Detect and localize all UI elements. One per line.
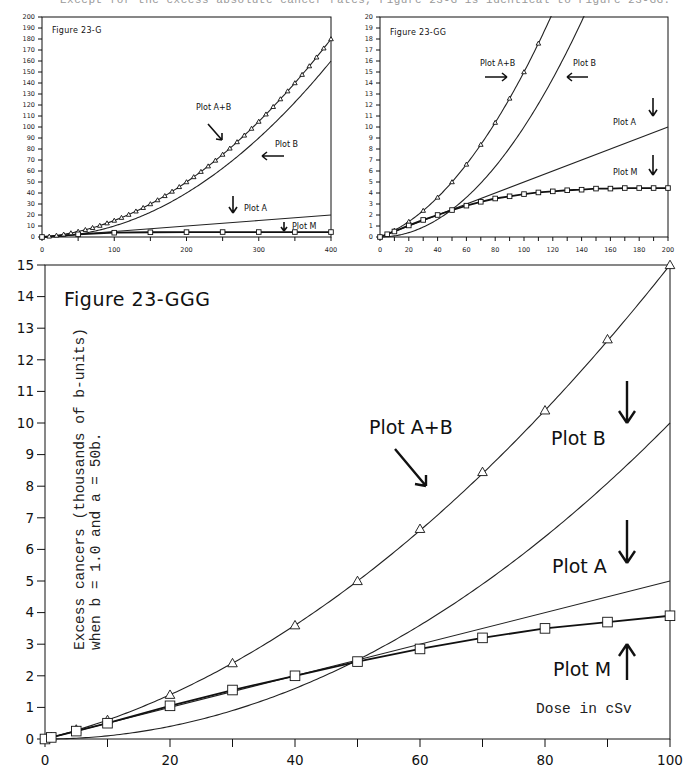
square-marker-icon: [165, 701, 175, 711]
figure-canvas: 0102030405060708090100110120130140150160…: [0, 0, 691, 784]
arrow-down-icon: [649, 98, 657, 116]
figure-title-23-ggg: Figure 23-GGG: [64, 288, 210, 310]
x-tick-label: 140: [575, 246, 587, 254]
y-tick-label: 11: [17, 383, 34, 399]
y-tick-label: 110: [23, 112, 35, 120]
x-tick-label: 120: [547, 246, 559, 254]
x-tick-label: 80: [536, 752, 553, 768]
triangle-marker-icon: [155, 198, 160, 202]
y-tick-label: 14: [17, 288, 34, 304]
square-marker-icon: [329, 230, 334, 235]
figure-title-23-gg: Figure 23-GG: [390, 28, 446, 37]
triangle-marker-icon: [329, 37, 334, 41]
x-tick-label: 0: [40, 246, 44, 254]
y-axis-label-line2: when b = 1.0 and a = 50b.: [88, 432, 104, 650]
y-tick-label: 12: [17, 352, 34, 368]
x-tick-label: 200: [180, 246, 192, 254]
triangle-marker-icon: [112, 218, 117, 222]
label-plot-b-g: Plot B: [275, 140, 298, 149]
y-tick-label: 80: [27, 145, 35, 153]
label-plot-b-ggg: Plot B: [551, 427, 606, 449]
label-plot-m-g: Plot M: [292, 222, 317, 231]
arrow-down-icon: [649, 155, 657, 175]
label-plot-ab-g: Plot A+B: [196, 103, 231, 112]
y-tick-label: 0: [31, 233, 35, 241]
square-marker-icon: [378, 235, 383, 240]
y-tick-label: 12: [365, 101, 373, 109]
y-tick-label: 4: [369, 189, 373, 197]
y-tick-label: 3: [369, 200, 373, 208]
y-tick-label: 150: [23, 68, 35, 76]
arrow-left-icon: [567, 73, 588, 81]
square-marker-icon: [479, 200, 484, 205]
square-marker-icon: [594, 186, 599, 191]
square-marker-icon: [407, 223, 412, 228]
y-tick-label: 40: [27, 189, 35, 197]
label-plot-ab-ggg: Plot A+B: [369, 416, 453, 438]
square-marker-icon: [46, 733, 56, 743]
x-tick-label: 100: [518, 246, 530, 254]
y-tick-label: 2: [369, 211, 373, 219]
y-tick-label: 180: [23, 35, 35, 43]
label-plot-a-g: Plot A: [244, 204, 268, 213]
x-tick-label: 400: [325, 246, 337, 254]
figure-title-23-g: Figure 23-G: [52, 26, 102, 35]
y-tick-label: 140: [23, 79, 35, 87]
y-tick-label: 17: [365, 46, 373, 54]
y-tick-label: 50: [27, 178, 35, 186]
arrow-up-icon: [619, 644, 635, 680]
square-marker-icon: [579, 187, 584, 192]
y-tick-label: 10: [17, 415, 34, 431]
y-tick-label: 6: [25, 541, 34, 557]
square-marker-icon: [353, 657, 363, 667]
square-marker-icon: [184, 230, 189, 235]
triangle-marker-icon: [665, 260, 675, 268]
y-tick-label: 5: [25, 573, 34, 589]
y-tick-label: 9: [25, 446, 34, 462]
y-tick-label: 5: [369, 178, 373, 186]
y-tick-label: 20: [365, 13, 373, 21]
square-marker-icon: [415, 644, 425, 654]
x-tick-label: 0: [41, 752, 50, 768]
x-tick-label: 60: [411, 752, 428, 768]
triangle-marker-icon: [134, 209, 139, 213]
y-tick-label: 13: [365, 90, 373, 98]
y-tick-label: 9: [369, 134, 373, 142]
square-marker-icon: [40, 235, 45, 240]
triangle-marker-icon: [170, 189, 175, 193]
x-tick-label: 40: [286, 752, 303, 768]
square-marker-icon: [565, 188, 570, 193]
triangle-marker-icon: [507, 96, 512, 100]
x-tick-label: 40: [433, 246, 441, 254]
x-tick-label: 100: [657, 752, 683, 768]
square-marker-icon: [450, 208, 455, 213]
label-plot-m-ggg: Plot M: [553, 658, 611, 680]
arrow-down-right-icon: [395, 449, 426, 486]
arrow-down-right-icon: [208, 124, 222, 140]
x-tick-label: 160: [604, 246, 616, 254]
square-marker-icon: [421, 218, 426, 223]
y-tick-label: 6: [369, 167, 373, 175]
square-marker-icon: [220, 230, 225, 235]
y-tick-label: 8: [369, 145, 373, 153]
chart-figure-23-ggg: 0123456789101112131415020406080100: [17, 257, 683, 768]
square-marker-icon: [385, 232, 390, 237]
y-tick-label: 15: [365, 68, 373, 76]
y-tick-label: 0: [25, 731, 34, 747]
y-tick-label: 30: [27, 200, 35, 208]
square-marker-icon: [651, 186, 656, 191]
series-line-plot-b: [42, 61, 331, 237]
y-tick-label: 60: [27, 167, 35, 175]
square-marker-icon: [666, 186, 671, 191]
triangle-marker-icon: [228, 658, 238, 666]
y-tick-label: 20: [27, 211, 35, 219]
square-marker-icon: [478, 633, 488, 643]
x-axis-label: Dose in cSv: [536, 701, 632, 717]
y-tick-label: 190: [23, 24, 35, 32]
triangle-marker-icon: [141, 205, 146, 209]
y-tick-label: 7: [25, 510, 34, 526]
y-tick-label: 130: [23, 90, 35, 98]
y-tick-label: 14: [365, 79, 373, 87]
arrow-down-icon: [281, 222, 287, 231]
triangle-marker-icon: [478, 467, 488, 475]
